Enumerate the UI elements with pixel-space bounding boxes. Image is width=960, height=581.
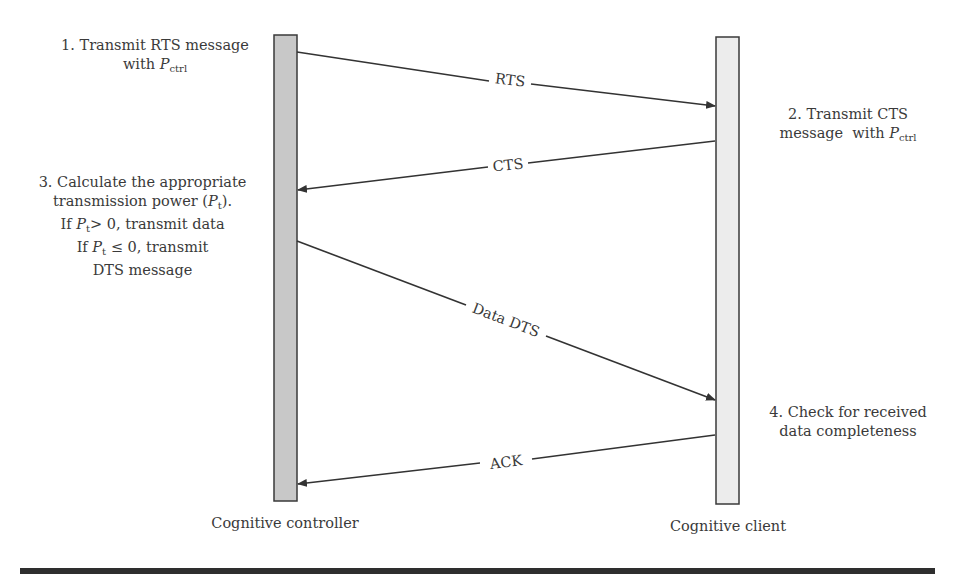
var-p: P: [889, 125, 899, 141]
message-rts: RTS: [297, 52, 715, 106]
note-step3-line2-suffix: ).: [222, 193, 232, 209]
note-step3-line4: If Pt ≤ 0, transmit: [10, 238, 275, 261]
note-step3-line3-prefix: If: [60, 216, 76, 232]
message-cts: CTS: [298, 141, 715, 190]
message-label-data-dts: Data DTS: [470, 300, 542, 340]
var-p: P: [92, 239, 102, 255]
var-p: P: [76, 216, 86, 232]
message-label-cts: CTS: [492, 155, 524, 174]
note-step2: 2. Transmit CTS message with Pctrl: [748, 105, 948, 147]
bottom-rule: [20, 568, 935, 574]
note-step4-line1: 4. Check for received: [748, 403, 948, 422]
message-data-dts: Data DTS: [297, 241, 715, 400]
note-step1: 1. Transmit RTS message with Pctrl: [20, 36, 290, 78]
note-step3-line2: transmission power (Pt).: [10, 192, 275, 215]
note-step4: 4. Check for received data completeness: [748, 403, 948, 441]
note-step3-line2-prefix: transmission power (: [53, 193, 208, 209]
controller-lifeline-bar: [274, 35, 297, 501]
note-step1-line2: with Pctrl: [20, 55, 290, 78]
sub-ctrl: ctrl: [899, 132, 917, 143]
note-step1-line2-prefix: with: [123, 56, 160, 72]
note-step3-line4-suffix: ≤ 0, transmit: [106, 239, 208, 255]
message-label-rts: RTS: [494, 70, 526, 90]
sequence-diagram: RTS CTS Data DTS ACK: [0, 0, 960, 581]
message-ack: ACK: [298, 435, 715, 484]
note-step1-line1: 1. Transmit RTS message: [20, 36, 290, 55]
note-step4-line2: data completeness: [748, 422, 948, 441]
note-step2-line2: message with Pctrl: [748, 124, 948, 147]
note-step3-line4-prefix: If: [77, 239, 93, 255]
participant-label-controller: Cognitive controller: [185, 515, 385, 531]
message-label-ack: ACK: [488, 452, 524, 472]
note-step3: 3. Calculate the appropriate transmissio…: [10, 173, 275, 280]
participant-label-client: Cognitive client: [628, 518, 828, 534]
sub-ctrl: ctrl: [169, 63, 187, 74]
note-step3-line3-suffix: > 0, transmit data: [90, 216, 225, 232]
note-step3-line5: DTS message: [10, 261, 275, 280]
note-step2-line1: 2. Transmit CTS: [748, 105, 948, 124]
note-step2-line2-prefix: message with: [779, 125, 889, 141]
var-p: P: [208, 193, 218, 209]
client-lifeline-bar: [716, 37, 739, 504]
note-step3-line1: 3. Calculate the appropriate: [10, 173, 275, 192]
note-step3-line3: If Pt> 0, transmit data: [10, 215, 275, 238]
